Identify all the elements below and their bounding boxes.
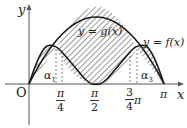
tick-pi: π [160, 89, 167, 100]
tick-pi-over-2: π 2 [90, 88, 99, 113]
hatched-region-middle [56, 7, 137, 85]
curve-g-label: y = g(x) [78, 26, 122, 37]
origin-label: O [16, 86, 27, 99]
function-graph-figure: y x O y = g(x) y = f(x) α1 α3 π 4 π 2 3 … [0, 0, 187, 128]
alpha3-label: α3 [141, 70, 153, 84]
alpha1-label: α1 [44, 70, 56, 84]
tick-3pi-over-4: 3 4 [125, 87, 134, 112]
tick-pi-over-4: π 4 [56, 88, 65, 113]
x-axis-arrow-icon [178, 82, 184, 87]
tick-3pi-over-4-pi: π [134, 94, 141, 107]
x-axis-label: x [177, 88, 184, 101]
y-axis-label: y [18, 3, 25, 16]
curve-f-label: y = f(x) [143, 37, 184, 48]
y-axis-arrow-icon [27, 4, 32, 10]
